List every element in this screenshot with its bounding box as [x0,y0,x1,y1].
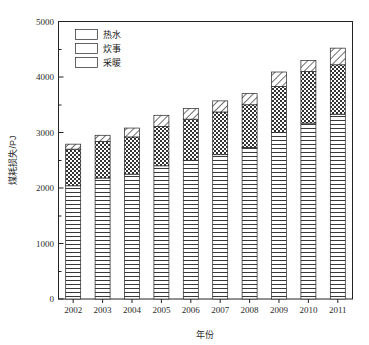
bar-segment-炊事 [213,112,228,155]
legend-swatch-hotwater [76,30,98,40]
bar-segment-采暖 [330,114,345,299]
bar-segment-热水 [242,94,257,105]
bar-segment-热水 [66,144,81,149]
bar-2010 [301,60,316,299]
x-tick-label-2011: 2011 [329,305,347,315]
bar-segment-采暖 [95,178,110,299]
stacked-bar-chart: 0 1000 2000 3000 4000 5000 煤耗损失/PJ 20022… [0,0,369,345]
bar-segment-炊事 [125,137,140,174]
bar-segment-热水 [183,109,198,120]
legend-label-heating: 采暖 [103,57,121,68]
legend-swatch-cooking [76,44,98,54]
y-tick-label-5000: 5000 [36,17,55,27]
x-tick-label-2002: 2002 [64,305,82,315]
bar-segment-炊事 [154,126,169,165]
x-axis-title: 年份 [196,329,214,340]
bar-segment-采暖 [301,123,316,299]
y-axis-title: 煤耗损失/PJ [7,135,18,184]
legend-swatch-heating [76,58,98,68]
x-tick-label-2005: 2005 [152,305,171,315]
x-tick-label-2009: 2009 [270,305,289,315]
legend-label-cooking: 炊事 [103,43,121,54]
bar-2008 [242,94,257,299]
bar-segment-采暖 [272,133,287,300]
bar-2002 [66,144,81,299]
bar-2009 [272,72,287,299]
x-tick-label-2006: 2006 [182,305,201,315]
bar-segment-炊事 [183,119,198,160]
bar-segment-热水 [154,115,169,126]
bar-2003 [95,135,110,299]
x-tick-label-2007: 2007 [211,305,230,315]
x-tick-label-2010: 2010 [299,305,318,315]
bar-segment-热水 [213,101,228,112]
legend-label-hotwater: 热水 [103,29,121,40]
bar-segment-炊事 [301,71,316,123]
bar-segment-采暖 [154,166,169,299]
bar-segment-炊事 [272,86,287,132]
y-tick-label-2000: 2000 [36,183,55,193]
bar-2007 [213,101,228,299]
bar-segment-热水 [330,48,345,65]
x-tick-label-2008: 2008 [241,305,260,315]
bar-2011 [330,48,345,299]
bar-segment-热水 [301,60,316,71]
chart-container: 0 1000 2000 3000 4000 5000 煤耗损失/PJ 20022… [0,0,369,345]
bar-segment-采暖 [213,155,228,299]
bar-2004 [125,128,140,299]
bar-segment-炊事 [66,149,81,186]
x-tick-label-2004: 2004 [123,305,142,315]
bar-segment-热水 [95,135,110,141]
bar-segment-热水 [125,128,140,137]
y-tick-label-1000: 1000 [36,239,55,249]
y-tick-label-4000: 4000 [36,72,55,82]
bar-segment-炊事 [242,105,257,148]
bar-segment-热水 [272,72,287,86]
bar-segment-炊事 [330,65,345,114]
bar-2005 [154,115,169,299]
bar-segment-采暖 [66,186,81,299]
bar-segment-采暖 [242,147,257,299]
bar-segment-采暖 [183,160,198,299]
bar-segment-炊事 [95,141,110,178]
y-tick-label-0: 0 [50,294,55,304]
bar-2006 [183,109,198,299]
bar-segment-采暖 [125,174,140,299]
x-tick-label-2003: 2003 [94,305,113,315]
y-tick-label-3000: 3000 [36,128,55,138]
